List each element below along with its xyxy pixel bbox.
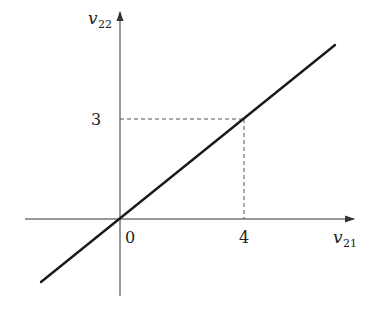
origin-label: 0 [125, 228, 135, 247]
y-axis-label: v 22 [88, 8, 112, 31]
svg-text:v: v [333, 227, 343, 247]
svg-text:21: 21 [343, 237, 357, 250]
svg-text:v: v [88, 8, 98, 28]
data-line [41, 45, 335, 282]
x-tick-label: 4 [239, 228, 249, 247]
x-axis-label: v 21 [333, 227, 357, 250]
diagram-canvas: 0 4 3 v 21 v 22 [0, 0, 378, 309]
y-tick-label: 3 [91, 110, 101, 129]
svg-text:22: 22 [98, 18, 112, 31]
